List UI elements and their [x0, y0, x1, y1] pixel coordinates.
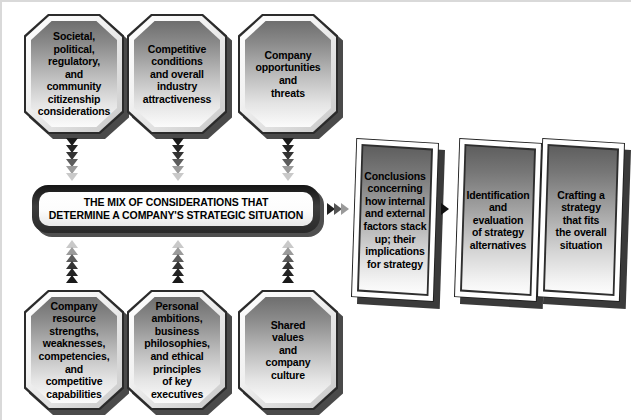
arrow-down-opportunities	[282, 138, 294, 180]
arrow-right-to-conclusions	[327, 203, 348, 215]
node-personal-ambitions: Personal ambitions, business philosophie…	[127, 290, 227, 410]
step-label: Identification and evaluation of strateg…	[454, 138, 542, 302]
arrow-head-icon	[66, 173, 78, 181]
node-label: Personal ambitions, business philosophie…	[127, 290, 227, 410]
node-competitive-conditions: Competitive conditions and overall indus…	[127, 14, 227, 134]
bar-face: THE MIX OF CONSIDERATIONS THAT DETERMINE…	[39, 192, 313, 226]
arrow-up-resources	[66, 240, 78, 282]
arrow-head-icon	[341, 203, 349, 215]
center-summary-bar: THE MIX OF CONSIDERATIONS THAT DETERMINE…	[32, 185, 320, 233]
arrow-down-competitive	[172, 138, 184, 180]
node-label: Competitive conditions and overall indus…	[127, 14, 227, 134]
step-conclusions: Conclusions concerning how internal and …	[351, 138, 439, 302]
node-label: Shared values and company culture	[238, 290, 338, 410]
arrow-head-icon	[282, 173, 294, 181]
step-label: Crafting a strategy that fits the overal…	[537, 138, 625, 302]
node-label: Societal, political, regulatory, and com…	[24, 14, 124, 134]
arrow-head-icon	[172, 173, 184, 181]
bar-label: THE MIX OF CONSIDERATIONS THAT DETERMINE…	[49, 196, 303, 222]
arrow-head-icon	[172, 275, 184, 283]
step-identification: Identification and evaluation of strateg…	[454, 138, 542, 302]
node-label: Company opportunities and threats	[238, 14, 338, 134]
diagram-canvas: Societal, political, regulatory, and com…	[0, 0, 631, 420]
arrow-head-icon	[441, 203, 449, 215]
arrow-down-societal	[66, 138, 78, 180]
arrow-up-values	[282, 240, 294, 282]
step-label: Conclusions concerning how internal and …	[351, 138, 439, 302]
arrow-head-icon	[282, 275, 294, 283]
arrow-up-personal	[172, 240, 184, 282]
node-societal-political: Societal, political, regulatory, and com…	[24, 14, 124, 134]
node-company-resources: Company resource strengths, weaknesses, …	[24, 290, 124, 410]
node-company-opportunities: Company opportunities and threats	[238, 14, 338, 134]
step-crafting: Crafting a strategy that fits the overal…	[537, 138, 625, 302]
arrow-right-to-identification	[441, 203, 448, 215]
node-shared-values: Shared values and company culture	[238, 290, 338, 410]
arrow-head-icon	[66, 275, 78, 283]
node-label: Company resource strengths, weaknesses, …	[24, 290, 124, 410]
